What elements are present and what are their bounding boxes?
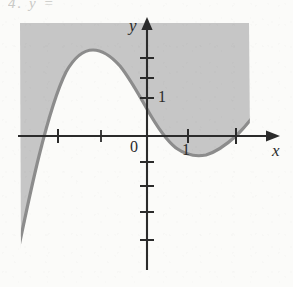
x-axis-arrowhead xyxy=(266,130,280,141)
x-unit-label: 1 xyxy=(182,142,190,158)
x-axis-label: x xyxy=(272,142,280,159)
origin-label: 0 xyxy=(130,139,138,155)
graph-canvas xyxy=(0,0,293,287)
graph-figure: 4. y = xyxy=(0,0,293,287)
y-axis-label: y xyxy=(129,17,137,34)
y-unit-label: 1 xyxy=(158,89,166,105)
